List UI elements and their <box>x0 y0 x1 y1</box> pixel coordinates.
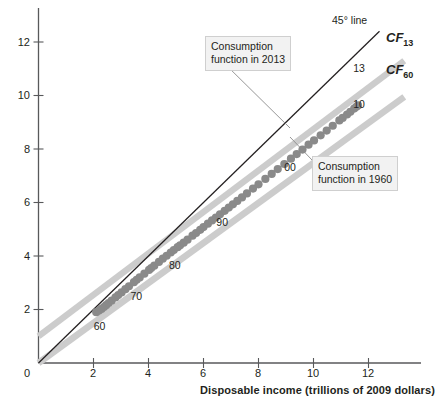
annotation-2013-line2: function in 2013 <box>211 53 285 66</box>
x-axis-title: Disposable income (trillions of 2009 dol… <box>200 385 435 396</box>
annotation-2013-line1: Consumption <box>211 40 285 53</box>
y-tick-label-4: 4 <box>8 251 30 262</box>
scatter-point <box>329 122 337 130</box>
scatter-point-group <box>92 101 362 316</box>
year-label-70: 70 <box>131 291 143 302</box>
scatter-point <box>310 136 318 144</box>
scatter-point <box>274 165 282 173</box>
y-tick-label-0: 0 <box>8 368 30 379</box>
year-label-13: 13 <box>353 63 365 74</box>
label-cf60-base: CF <box>386 62 403 77</box>
scatter-point <box>261 175 269 183</box>
label-45-degree-line: 45° line <box>332 14 367 26</box>
y-tick-label-12: 12 <box>8 37 30 48</box>
annotation-1960-line2: function in 1960 <box>318 173 392 186</box>
line-45-degree <box>39 31 380 363</box>
x-tick-label-4: 4 <box>137 368 159 379</box>
year-label-80: 80 <box>169 260 181 271</box>
scatter-point <box>254 180 262 188</box>
label-cf60-sub: 60 <box>403 70 413 80</box>
y-tick-label-8: 8 <box>8 144 30 155</box>
y-tick-label-2: 2 <box>8 304 30 315</box>
y-tick-label-10: 10 <box>8 90 30 101</box>
label-cf13-base: CF <box>386 30 403 45</box>
leader-line-2013 <box>224 63 290 128</box>
x-tick-label-2: 2 <box>82 368 104 379</box>
annotation-consumption-function-1960: Consumption function in 1960 <box>312 156 398 191</box>
label-cf13-sub: 13 <box>403 38 413 48</box>
x-tick-label-12: 12 <box>357 368 379 379</box>
year-label-10: 10 <box>353 99 365 110</box>
line-cf13 <box>39 61 405 337</box>
x-tick-label-6: 6 <box>192 368 214 379</box>
x-tick-label-10: 10 <box>302 368 324 379</box>
year-label-90: 90 <box>216 217 228 228</box>
label-cf13: CF13 <box>386 30 413 48</box>
y-tick-label-6: 6 <box>8 197 30 208</box>
year-label-00: 00 <box>284 162 296 173</box>
label-cf60: CF60 <box>386 62 413 80</box>
x-tick-label-8: 8 <box>247 368 269 379</box>
year-label-60: 60 <box>94 321 106 332</box>
annotation-consumption-function-2013: Consumption function in 2013 <box>205 36 291 71</box>
annotation-1960-line1: Consumption <box>318 160 392 173</box>
